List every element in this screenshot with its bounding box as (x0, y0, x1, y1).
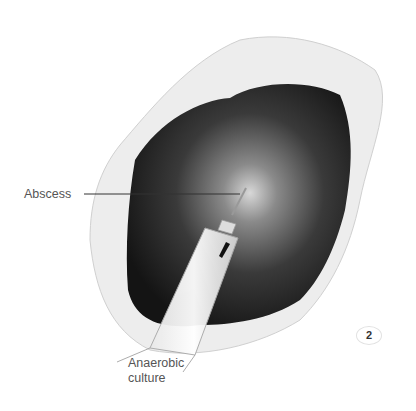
figure-number-badge: 2 (356, 326, 382, 345)
abscess-label: Abscess (24, 186, 71, 202)
surgical-illustration (0, 0, 416, 411)
culture-label-line1: Anaerobic (128, 355, 184, 371)
culture-label-line2: culture (128, 370, 166, 386)
